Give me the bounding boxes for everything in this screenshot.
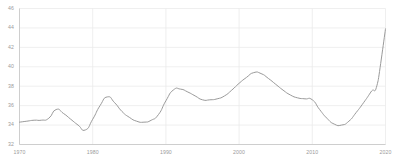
x-axis-tick-label: 2010 [297,150,327,155]
y-axis-tick-label: 36 [0,103,14,108]
y-axis-tick-label: 44 [0,25,14,30]
x-axis-tick-label: 1980 [78,150,108,155]
x-axis-tick-label: 2020 [371,150,396,155]
x-axis-tick-label: 2000 [224,150,254,155]
x-axis-tick-label: 1990 [151,150,181,155]
y-axis-tick-label: 34 [0,122,14,127]
y-axis-tick-label: 42 [0,45,14,50]
y-axis-tick-label: 46 [0,6,14,11]
y-axis-tick-label: 32 [0,142,14,147]
y-axis-tick-label: 38 [0,84,14,89]
y-axis-tick-label: 40 [0,64,14,69]
x-axis-tick-label: 1970 [5,150,35,155]
